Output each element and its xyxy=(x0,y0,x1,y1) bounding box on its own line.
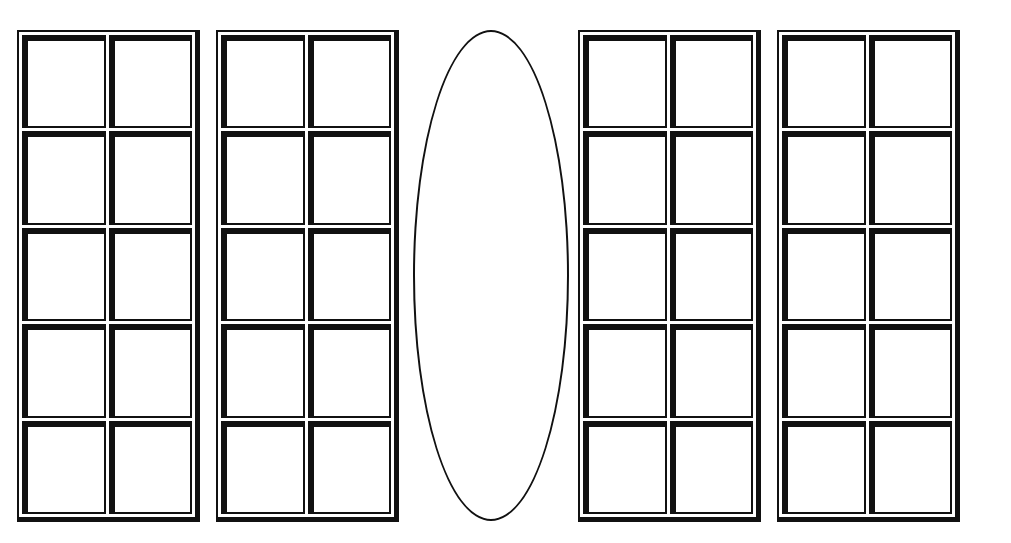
frame-cell xyxy=(670,421,754,514)
ten-frame-grid xyxy=(22,35,192,514)
frame-cell xyxy=(22,324,106,417)
frame-cell xyxy=(583,35,667,128)
frame-cell xyxy=(221,35,305,128)
frame-cell xyxy=(782,228,866,321)
frame-cell xyxy=(221,131,305,224)
frame-cell xyxy=(22,228,106,321)
ten-frame-grid xyxy=(221,35,391,514)
frame-cell xyxy=(583,131,667,224)
frame-cell xyxy=(308,421,392,514)
frame-cell xyxy=(782,421,866,514)
frame-cell xyxy=(782,324,866,417)
frame-cell xyxy=(869,131,953,224)
empty-oval xyxy=(413,30,569,521)
ten-frame-2 xyxy=(216,30,399,522)
frame-cell xyxy=(869,228,953,321)
frame-cell xyxy=(583,324,667,417)
frame-cell xyxy=(308,228,392,321)
ten-frame-1 xyxy=(17,30,200,522)
ten-frame-4 xyxy=(777,30,960,522)
frame-cell xyxy=(109,324,193,417)
ten-frame-3 xyxy=(578,30,761,522)
frame-cell xyxy=(22,35,106,128)
frame-cell xyxy=(670,228,754,321)
frame-cell xyxy=(221,228,305,321)
frame-cell xyxy=(782,35,866,128)
frame-cell xyxy=(109,228,193,321)
frame-cell xyxy=(109,35,193,128)
frame-cell xyxy=(308,324,392,417)
frame-cell xyxy=(670,324,754,417)
frame-cell xyxy=(109,421,193,514)
frame-cell xyxy=(583,228,667,321)
frame-cell xyxy=(869,35,953,128)
frame-cell xyxy=(782,131,866,224)
frame-cell xyxy=(22,131,106,224)
frame-cell xyxy=(583,421,667,514)
frame-cell xyxy=(308,35,392,128)
frame-cell xyxy=(221,421,305,514)
frame-cell xyxy=(869,324,953,417)
frame-cell xyxy=(670,35,754,128)
frame-cell xyxy=(670,131,754,224)
frame-cell xyxy=(22,421,106,514)
frame-cell xyxy=(109,131,193,224)
ten-frame-grid xyxy=(782,35,952,514)
frame-cell xyxy=(869,421,953,514)
frame-cell xyxy=(308,131,392,224)
ten-frame-grid xyxy=(583,35,753,514)
frame-cell xyxy=(221,324,305,417)
